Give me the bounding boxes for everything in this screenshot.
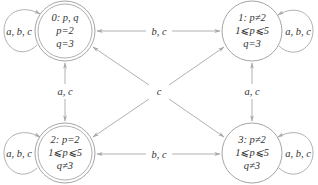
node-1-line3: q=3	[243, 38, 261, 49]
node-1-line2: 1⩽p⩽5	[235, 25, 269, 36]
self-loop-label-1: a, b, c	[285, 26, 311, 37]
state-node-3[interactable]: 3: p≠2 1⩽p⩽5 q≠3	[222, 123, 282, 183]
edge-2-3: b, c	[97, 149, 220, 160]
node-3-line1: 3: p≠2	[237, 134, 266, 145]
node-0-line1: 0: p, q	[51, 12, 78, 23]
state-diagram: b, c b, c a, c a, c c a, b, c a, b, c a,…	[0, 0, 318, 185]
node-2-line2: 1⩽p⩽5	[48, 147, 82, 158]
edge-0-1: b, c	[97, 26, 220, 37]
self-loop-label-3: a, b, c	[285, 148, 311, 159]
edge-1-3: a, c	[244, 63, 260, 121]
node-0-line2: p=2	[55, 25, 74, 36]
node-3-line3: q≠3	[244, 160, 260, 171]
node-2-line3: q≠3	[57, 160, 73, 171]
edge-label-0-2: a, c	[57, 86, 73, 97]
edge-0-2: a, c	[57, 63, 73, 121]
state-node-0[interactable]: 0: p, q p=2 q=3	[35, 1, 95, 61]
center-edge-label: c	[157, 86, 162, 97]
self-loop-3: a, b, c	[278, 133, 313, 175]
edge-label-2-3: b, c	[151, 149, 167, 160]
state-node-1[interactable]: 1: p≠2 1⩽p⩽5 q=3	[222, 1, 282, 61]
node-3-line2: 1⩽p⩽5	[235, 147, 269, 158]
state-node-2[interactable]: 2: p=2 1⩽p⩽5 q≠3	[35, 123, 95, 183]
node-1-line1: 1: p≠2	[238, 12, 266, 23]
edge-label-0-1: b, c	[151, 26, 167, 37]
node-2-line1: 2: p=2	[51, 134, 81, 145]
self-loop-label-2: a, b, c	[6, 148, 32, 159]
edge-label-1-3: a, c	[244, 86, 260, 97]
node-0-line3: q=3	[56, 38, 74, 49]
self-loop-label-0: a, b, c	[6, 26, 32, 37]
self-loop-1: a, b, c	[278, 10, 313, 52]
